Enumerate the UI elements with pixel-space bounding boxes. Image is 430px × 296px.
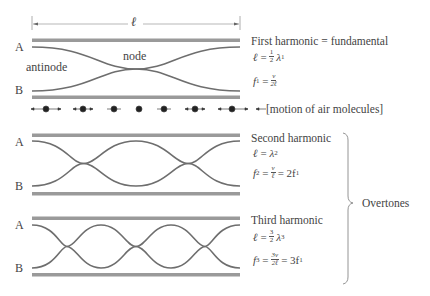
second-harmonic-frequency-eq: f2 = vℓ = 2f1 bbox=[253, 165, 299, 180]
third-harmonic-wavelength-eq: ℓ = 32 λ3 bbox=[253, 229, 284, 244]
end-b-label: B bbox=[15, 262, 23, 274]
antinode-label: antinode bbox=[26, 61, 67, 73]
end-a-label: A bbox=[15, 41, 24, 53]
third-harmonic-frequency-eq: f3 = 3v2ℓ = 3f1 bbox=[253, 252, 303, 267]
air-molecules-row bbox=[31, 106, 266, 112]
third-harmonic-tube bbox=[32, 217, 240, 277]
end-b-label: B bbox=[15, 84, 23, 96]
overtones-label: Overtones bbox=[362, 197, 409, 209]
node-label: node bbox=[123, 50, 146, 62]
first-harmonic-title: First harmonic = fundamental bbox=[251, 35, 388, 47]
first-harmonic-frequency-eq: f1 = v2ℓ bbox=[253, 73, 279, 88]
second-harmonic-wavelength-eq: ℓ = λ2 bbox=[253, 147, 278, 159]
air-molecules-label: [motion of air molecules] bbox=[266, 103, 383, 115]
second-harmonic-tube bbox=[32, 134, 240, 196]
second-harmonic-title: Second harmonic bbox=[251, 132, 331, 144]
third-harmonic-title: Third harmonic bbox=[251, 214, 323, 226]
first-harmonic-wavelength-eq: ℓ = 12 λ1 bbox=[253, 49, 284, 64]
length-label: ℓ bbox=[131, 16, 136, 28]
end-b-label: B bbox=[15, 180, 23, 192]
end-a-label: A bbox=[15, 219, 24, 231]
overtones-brace bbox=[343, 133, 353, 284]
end-a-label: A bbox=[15, 136, 24, 148]
